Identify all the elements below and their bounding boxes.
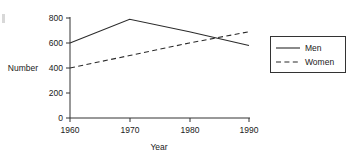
series-line-men bbox=[70, 19, 249, 45]
axis-group bbox=[66, 17, 250, 122]
series-line-women bbox=[70, 32, 249, 68]
y-tick-label-0: 0 bbox=[58, 113, 63, 123]
line-chart-figure: 800 600 400 200 0 Number 1960 1970 1980 … bbox=[0, 0, 351, 161]
y-axis-title: Number bbox=[8, 63, 38, 73]
y-tick-label-600: 600 bbox=[49, 38, 63, 48]
x-tick-label-1990: 1990 bbox=[240, 125, 259, 135]
chart-legend: Men Women bbox=[271, 37, 346, 73]
y-tick-label-200: 200 bbox=[49, 88, 63, 98]
x-tick-labels: 1960 1970 1980 1990 bbox=[61, 125, 259, 135]
data-series-group bbox=[70, 19, 249, 68]
legend-label-women: Women bbox=[305, 57, 334, 67]
x-tick-label-1960: 1960 bbox=[61, 125, 80, 135]
y-tick-label-400: 400 bbox=[49, 63, 63, 73]
legend-label-men: Men bbox=[305, 43, 322, 53]
x-tick-label-1980: 1980 bbox=[181, 125, 200, 135]
scan-artifact bbox=[2, 14, 5, 23]
x-tick-label-1970: 1970 bbox=[121, 125, 140, 135]
chart-canvas: 800 600 400 200 0 Number 1960 1970 1980 … bbox=[0, 0, 351, 161]
y-tick-labels: 800 600 400 200 0 bbox=[49, 13, 63, 123]
x-axis-title: Year bbox=[150, 142, 167, 152]
legend-border bbox=[271, 37, 346, 73]
y-tick-label-800: 800 bbox=[49, 13, 63, 23]
